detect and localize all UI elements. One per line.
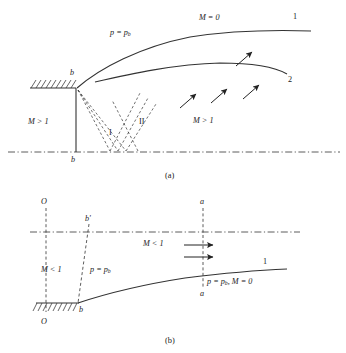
- panel-a-corner-top-label: b: [70, 69, 74, 77]
- panel-a-pressure-label: p = pb: [110, 29, 131, 38]
- panel-b-mach-mid-label: M < 1: [143, 240, 164, 248]
- panel-b-mach-left-label: M < 1: [41, 266, 62, 274]
- panel-a-wall-hatching: [31, 80, 76, 88]
- panel-b-flow-arrows: [184, 245, 213, 257]
- panel-a-flow-arrows: [180, 52, 259, 108]
- panel-b-station-a-top-label: a: [200, 198, 204, 206]
- panel-a-expansion-fan-one: [78, 90, 126, 151]
- panel-a-fan-convergence-two: [112, 100, 138, 151]
- panel-a-reflected-fan-two: [110, 93, 156, 151]
- panel-b-corner-b-label: b: [79, 306, 83, 314]
- panel-a-mach-right-label: M > 1: [193, 117, 214, 125]
- panel-a-inner-boundary: [95, 63, 287, 82]
- panel-a-caption: (a): [165, 172, 174, 180]
- panel-b-station-b-prime: [78, 224, 89, 303]
- panel-a-stream-two-label: 2: [288, 76, 292, 84]
- figure-container: p = pb M = 0 1 2 b b M > 1 M > 1 I II (a…: [0, 0, 346, 353]
- panel-b-stream-one-label: 1: [263, 258, 267, 266]
- panel-a-geometry: [8, 31, 340, 152]
- panel-a-outer-boundary: [77, 31, 311, 88]
- panel-a-stream-one-label: 1: [293, 13, 297, 21]
- panel-b-pressure-left-label: p = pb: [90, 266, 111, 275]
- panel-a-mach-left-label: M > 1: [28, 118, 49, 126]
- panel-b-station-a-bottom-label: a: [200, 290, 204, 298]
- panel-b-b-prime-label: b': [85, 215, 91, 223]
- panel-b-caption: (b): [165, 337, 175, 345]
- panel-b-axis-bottom-label: O: [41, 318, 47, 326]
- panel-a-corner-bottom-label: b: [71, 156, 75, 164]
- panel-a-mach-zero-label: M = 0: [199, 14, 220, 22]
- panel-b-wall-hatching: [33, 303, 77, 311]
- panel-b-exit-condition-label: p = pb, M = 0: [207, 278, 252, 287]
- panel-b-geometry: [30, 208, 300, 312]
- panel-b-axis-top-label: O: [41, 198, 47, 206]
- panel-a-fan-two-label: II: [139, 118, 144, 126]
- panel-a-fan-one-label: I: [109, 129, 112, 137]
